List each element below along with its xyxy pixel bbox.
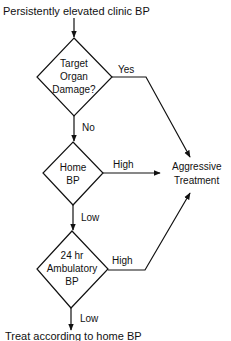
aggressive-line1: Aggressive [172,161,222,172]
label-no: No [82,122,95,133]
end-label: Treat according to home BP [5,330,142,341]
d3-line3: BP [65,276,79,287]
label-high-home: High [113,159,134,170]
d1-line3: Damage? [52,84,96,95]
d2-line1: Home [60,162,87,173]
start-label: Persistently elevated clinic BP [3,5,150,17]
d3-line2: Ambulatory [47,263,98,274]
decision-home-bp [43,142,103,205]
label-high-ambulatory: High [112,255,133,266]
d1-line1: Target [60,58,88,69]
aggressive-line2: Treatment [174,175,219,186]
label-yes: Yes [118,64,134,75]
d2-line2: BP [66,175,80,186]
d1-line2: Organ [60,71,88,82]
arrow-yes-to-aggressive [112,77,190,157]
flowchart-canvas: Persistently elevated clinic BP Target O… [0,0,231,341]
label-low-home: Low [81,212,100,223]
d3-line1: 24 hr [61,250,84,261]
label-low-ambulatory: Low [80,313,99,324]
